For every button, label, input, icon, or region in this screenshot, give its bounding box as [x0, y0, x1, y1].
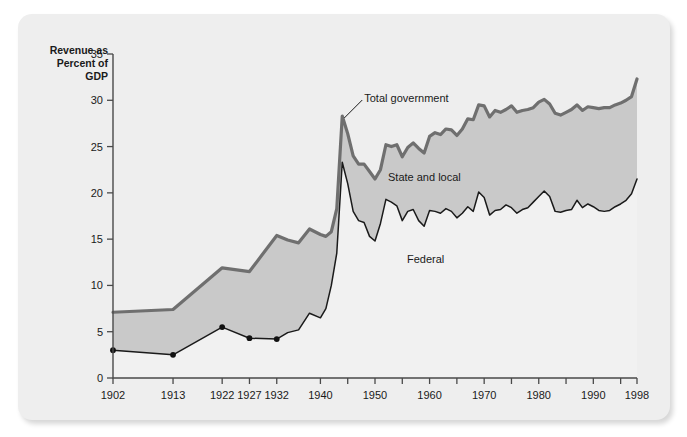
y-axis-tick-label: 0 — [97, 372, 103, 384]
x-axis-tick-label: 1902 — [101, 389, 125, 401]
y-axis-tick-label: 10 — [91, 279, 103, 291]
x-axis-tick-label: 1970 — [472, 389, 496, 401]
x-axis-tick-label: 1980 — [527, 389, 551, 401]
federal-label: Federal — [407, 253, 444, 265]
y-axis-tick-label: 30 — [91, 94, 103, 106]
x-axis-tick-label: 1960 — [417, 389, 441, 401]
x-axis-tick-label: 1913 — [161, 389, 185, 401]
x-axis-tick-label: 1940 — [308, 389, 332, 401]
x-axis-tick-label: 1990 — [581, 389, 605, 401]
x-axis-tick-label: 1950 — [363, 389, 387, 401]
data-point-marker — [274, 336, 280, 342]
x-axis-tick-label: 1932 — [265, 389, 289, 401]
total-government-label: Total government — [364, 92, 448, 104]
data-point-marker — [219, 324, 225, 330]
y-axis-tick-label: 20 — [91, 187, 103, 199]
x-axis-tick-label: 1998 — [625, 389, 649, 401]
x-axis-tick-label: 1922 — [210, 389, 234, 401]
data-point-marker — [247, 335, 253, 341]
chart-figure: Revenue as Percent of GDP 05101520253035… — [0, 0, 687, 437]
screenshot-root: Revenue as Percent of GDP 05101520253035… — [0, 0, 687, 437]
revenue-area-chart: 0510152025303519021913192219271932194019… — [0, 0, 687, 437]
y-axis-tick-label: 15 — [91, 233, 103, 245]
data-point-marker — [170, 352, 176, 358]
y-axis-tick-label: 5 — [97, 326, 103, 338]
total-government-leader-line — [344, 100, 362, 118]
y-axis-tick-label: 35 — [91, 48, 103, 60]
x-axis-tick-label: 1927 — [237, 389, 261, 401]
y-axis-tick-label: 25 — [91, 141, 103, 153]
state-and-local-label: State and local — [388, 171, 461, 183]
